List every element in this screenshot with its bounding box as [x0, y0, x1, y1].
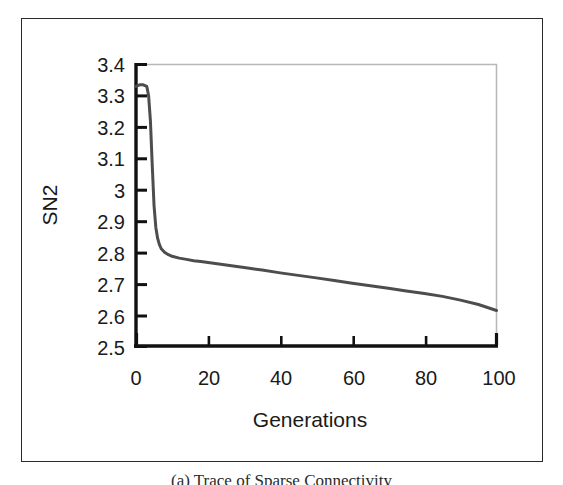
x-tick-label-80: 80: [415, 367, 437, 389]
y-tick-label-2.5: 2.5: [97, 337, 125, 359]
x-tick-label-40: 40: [270, 367, 292, 389]
y-tick-label-2.7: 2.7: [97, 274, 125, 296]
y-tick-label-3.3: 3.3: [97, 85, 125, 107]
figure-container: 3.4 3.3 3.2 3.1 3 2.9 2.8 2.7 2.6 2.5 0 …: [0, 0, 563, 485]
y-tick-label-3.4: 3.4: [97, 54, 125, 76]
x-tick-label-0: 0: [130, 367, 141, 389]
figure-caption: (a) Trace of Sparse Connectivity: [0, 470, 563, 485]
y-axis-title: SN2: [38, 185, 61, 226]
y-tick-label-2.9: 2.9: [97, 211, 125, 233]
x-tick-label-20: 20: [198, 367, 220, 389]
y-tick-labels: 3.4 3.3 3.2 3.1 3 2.9 2.8 2.7 2.6 2.5: [97, 54, 125, 359]
plot-area-background: [135, 64, 497, 347]
y-tick-label-2.8: 2.8: [97, 243, 125, 265]
y-tick-label-3.1: 3.1: [97, 148, 125, 170]
line-chart: 3.4 3.3 3.2 3.1 3 2.9 2.8 2.7 2.6 2.5 0 …: [0, 0, 563, 485]
y-tick-label-3: 3: [114, 180, 125, 202]
x-tick-label-60: 60: [343, 367, 365, 389]
x-tick-labels: 0 20 40 60 80 100: [130, 367, 515, 389]
x-tick-label-100: 100: [482, 367, 515, 389]
x-axis-title: Generations: [253, 408, 367, 431]
y-tick-label-2.6: 2.6: [97, 306, 125, 328]
y-tick-label-3.2: 3.2: [97, 117, 125, 139]
